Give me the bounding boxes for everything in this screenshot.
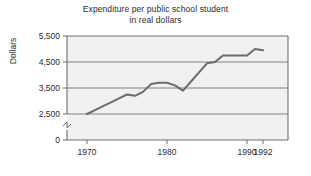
x-tick-marks <box>87 140 263 144</box>
x-tick-label-1970: 1970 <box>78 147 97 157</box>
x-tick-label-1980: 1980 <box>158 147 177 157</box>
y-tick-label-0: 0 <box>55 135 60 145</box>
x-tick-label-1992: 1992 <box>254 147 273 157</box>
y-tick-label-3500: 3,500 <box>39 83 61 93</box>
chart-figure: Expenditure per public school student in… <box>0 0 311 176</box>
y-tick-label-2500: 2,500 <box>39 109 61 119</box>
x-tick-labels: 1970198019901992 <box>78 147 273 157</box>
line-chart-plot: 02,5003,5004,5005,500 1970198019901992 <box>0 0 311 176</box>
y-tick-label-4500: 4,500 <box>39 57 61 67</box>
y-tick-label-5500: 5,500 <box>39 31 61 41</box>
y-tick-labels: 02,5003,5004,5005,500 <box>39 31 61 145</box>
